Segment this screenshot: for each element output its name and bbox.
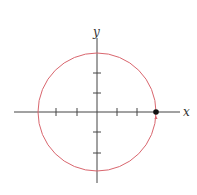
x-axis-label: x (183, 105, 190, 119)
y-axis-label: y (92, 25, 100, 39)
marked-point (153, 109, 159, 115)
direction-arrow-icon (155, 116, 158, 120)
diagram-canvas: x y (0, 0, 197, 195)
